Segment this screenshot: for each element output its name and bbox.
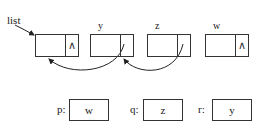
list-head-label: list (7, 15, 20, 26)
node-data-cell (206, 35, 236, 56)
list-node-w: ∧ (205, 34, 249, 57)
pointer-box-r: y (212, 99, 252, 121)
list-head-arrow (15, 25, 34, 35)
node-data-cell (36, 35, 66, 56)
node-next-cell (121, 35, 133, 56)
pointer-label-p: p: (57, 104, 66, 115)
node-data-cell (91, 35, 121, 56)
list-node-y (90, 34, 134, 57)
pointer-label-r: r: (198, 104, 205, 115)
null-pointer-icon: ∧ (236, 35, 248, 56)
list-node-z (147, 34, 191, 57)
node-label-y: y (98, 20, 103, 31)
pointer-box-q: z (143, 99, 183, 121)
pointer-label-q: q: (130, 104, 139, 115)
node-data-cell (148, 35, 178, 56)
node-next-cell (178, 35, 190, 56)
pointer-box-p: w (69, 99, 109, 121)
null-pointer-icon: ∧ (66, 35, 78, 56)
list-node-first: ∧ (35, 34, 79, 57)
node-label-w: w (213, 20, 220, 31)
node-label-z: z (155, 20, 159, 31)
